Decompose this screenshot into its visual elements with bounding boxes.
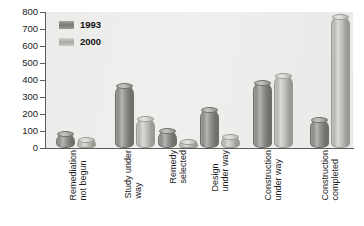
bar-cap xyxy=(275,73,292,79)
y-tick-mark xyxy=(40,46,45,47)
y-tick-label: 500 xyxy=(4,58,38,67)
legend-entry-2000: 2000 xyxy=(59,35,101,48)
bar-cap xyxy=(159,128,176,134)
x-axis-line xyxy=(45,148,354,149)
bar-1993-0 xyxy=(56,133,75,148)
legend: 1993 2000 xyxy=(59,18,101,52)
legend-label-1993: 1993 xyxy=(80,20,101,29)
bar-2000-1 xyxy=(136,118,155,148)
bar-cap xyxy=(311,117,328,123)
x-tick-label: Study underway xyxy=(123,150,143,199)
bar-1993-5 xyxy=(310,119,329,148)
bar-2000-5 xyxy=(331,16,350,148)
y-tick-mark xyxy=(40,131,45,132)
bar-cap xyxy=(116,83,133,89)
y-tick-mark xyxy=(40,80,45,81)
x-tick-label-line: Construction xyxy=(263,150,273,201)
bar-2000-3 xyxy=(221,136,240,148)
y-axis-line xyxy=(45,12,46,149)
bar-1993-3 xyxy=(200,109,219,148)
bar-2000-2 xyxy=(179,141,198,148)
bar-cap xyxy=(57,131,74,137)
y-tick-label: 200 xyxy=(4,109,38,118)
y-tick-mark xyxy=(40,97,45,98)
bar-2000-4 xyxy=(274,75,293,148)
y-tick-label: 300 xyxy=(4,92,38,101)
y-tick-label: 400 xyxy=(4,75,38,84)
y-tick-mark xyxy=(40,63,45,64)
legend-entry-1993: 1993 xyxy=(59,18,101,31)
chart-figure: 8007006005004003002001000 1993 2000 Reme… xyxy=(0,0,364,226)
x-axis-labels: Remediationnot begunStudy underwayRemedy… xyxy=(0,150,364,226)
y-tick-label: 700 xyxy=(4,24,38,33)
x-tick-label-line: under way xyxy=(220,150,230,192)
x-tick-label-line: Design xyxy=(210,164,220,192)
y-tick-label: 100 xyxy=(4,126,38,135)
bar-cap xyxy=(137,116,154,122)
x-tick-label-line: Remedy xyxy=(168,150,178,184)
x-tick-label-line: selected xyxy=(178,150,188,184)
y-tick-mark xyxy=(40,12,45,13)
x-tick-label-line: under way xyxy=(273,150,283,201)
y-tick-label: 600 xyxy=(4,41,38,50)
y-tick-label: 800 xyxy=(4,7,38,16)
x-tick-label-line: not begun xyxy=(78,150,88,201)
x-tick-label-line: way xyxy=(133,150,143,199)
bar-cap xyxy=(254,80,271,86)
bar-1993-1 xyxy=(115,85,134,148)
x-tick-label: Constructioncompleted xyxy=(320,150,340,201)
bar-2000-0 xyxy=(77,139,96,148)
x-tick-label: Remediationnot begun xyxy=(68,150,88,201)
y-tick-mark xyxy=(40,148,45,149)
bar-cap xyxy=(201,107,218,113)
bar-cap xyxy=(78,137,95,143)
legend-swatch-1993 xyxy=(59,21,74,29)
legend-swatch-2000 xyxy=(59,38,74,46)
bar-cap xyxy=(332,14,349,20)
x-tick-label: Designunder way xyxy=(210,150,230,192)
x-tick-label: Constructionunder way xyxy=(263,150,283,201)
bar-cap xyxy=(222,134,239,140)
x-tick-label: Remedyselected xyxy=(168,150,188,184)
x-tick-label-line: Study under xyxy=(123,150,133,199)
bar-1993-2 xyxy=(158,130,177,148)
y-tick-mark xyxy=(40,114,45,115)
x-tick-label-line: Remediation xyxy=(68,150,78,201)
legend-label-2000: 2000 xyxy=(80,37,101,46)
y-tick-mark xyxy=(40,29,45,30)
x-tick-label-line: completed xyxy=(330,150,340,201)
bar-cap xyxy=(180,139,197,145)
bar-1993-4 xyxy=(253,82,272,148)
x-tick-label-line: Construction xyxy=(320,150,330,201)
